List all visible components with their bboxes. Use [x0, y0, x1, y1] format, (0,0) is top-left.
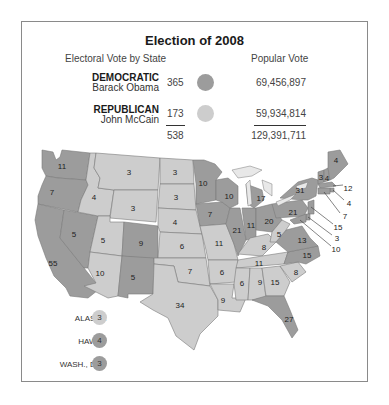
state-votes-sd: 3	[174, 193, 179, 202]
state-votes-al: 9	[258, 278, 263, 287]
state-votes-ms: 6	[240, 279, 245, 288]
state-votes-ok: 7	[188, 267, 193, 276]
state-votes-tn: 11	[255, 259, 264, 268]
state-votes-sc: 8	[294, 268, 299, 277]
state-votes-fl: 27	[285, 315, 294, 324]
state-votes-nv: 5	[72, 230, 77, 239]
state-votes-nj: 15	[334, 223, 343, 232]
state-votes-co: 9	[139, 239, 144, 248]
state-votes-ky: 8	[262, 243, 267, 252]
state-votes-la: 9	[221, 296, 226, 305]
state-votes-ar: 6	[220, 268, 225, 277]
state-votes-ia: 7	[208, 210, 213, 219]
leader-line-ct	[324, 192, 340, 213]
state-votes-ma: 12	[344, 184, 353, 193]
state-votes-ks: 6	[180, 242, 185, 251]
state-votes-il: 21	[233, 226, 242, 235]
state-votes-nm: 5	[131, 273, 136, 282]
dc-votes-dot: 3	[92, 356, 107, 371]
leader-line-ri	[333, 190, 344, 200]
leader-line-de	[308, 217, 332, 235]
state-votes-md: 10	[332, 245, 341, 254]
state-ct	[318, 188, 330, 194]
state-ne	[158, 208, 202, 234]
state-votes-ri: 4	[347, 199, 352, 208]
state-votes-vt: 3	[319, 173, 324, 182]
state-votes-ca: 55	[49, 259, 58, 268]
state-votes-va: 13	[298, 236, 307, 245]
lake-michigan	[246, 180, 252, 206]
state-votes-in: 11	[247, 221, 256, 230]
state-votes-wy: 3	[131, 204, 136, 213]
state-votes-nd: 3	[173, 168, 178, 177]
state-votes-mi: 17	[257, 194, 266, 203]
hawaii-votes-dot: 4	[92, 333, 107, 348]
state-votes-ct: 7	[343, 212, 348, 221]
state-votes-de: 3	[335, 234, 340, 243]
state-votes-wv: 5	[277, 230, 282, 239]
state-votes-mn: 10	[199, 179, 208, 188]
state-votes-id: 4	[92, 193, 97, 202]
state-votes-wa: 11	[58, 162, 67, 171]
state-nm	[118, 256, 154, 298]
state-votes-ut: 5	[101, 236, 106, 245]
state-ia	[196, 202, 230, 226]
state-votes-tx: 34	[176, 301, 185, 310]
state-votes-oh: 20	[265, 217, 274, 226]
state-votes-nc: 15	[303, 251, 312, 260]
state-votes-mt: 3	[127, 168, 132, 177]
state-votes-ne: 4	[173, 218, 178, 227]
state-votes-ny: 31	[296, 186, 305, 195]
state-votes-me: 4	[334, 156, 339, 165]
state-votes-wi: 10	[225, 192, 234, 201]
state-votes-pa: 21	[289, 208, 298, 217]
alaska-votes-dot: 3	[92, 310, 107, 325]
state-votes-or: 7	[50, 188, 55, 197]
state-me	[328, 150, 348, 180]
state-votes-az: 10	[96, 269, 105, 278]
lake-superior	[232, 166, 262, 178]
state-votes-ga: 15	[271, 278, 280, 287]
state-votes-nh: 4	[325, 174, 330, 183]
state-votes-mo: 11	[215, 239, 224, 248]
